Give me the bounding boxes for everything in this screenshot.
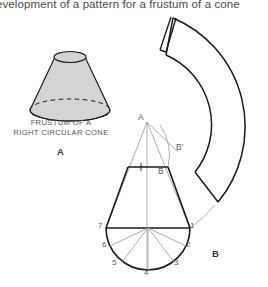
pattern-inner-arc	[166, 55, 212, 172]
plan-radius-2	[148, 228, 186, 246]
plan-point-label-7: 7	[98, 221, 102, 230]
plan-radius-3	[148, 228, 175, 263]
pictorial-caption: FRUSTUM OF A RIGHT CIRCULAR CONE	[6, 118, 116, 137]
seam-line-right	[166, 18, 176, 52]
figure-label-a: A	[57, 146, 64, 157]
developed-pattern	[166, 18, 245, 202]
construction-arc-inner-swing	[160, 125, 169, 167]
construction-lines	[106, 122, 215, 272]
plan-point-label-2: 2	[186, 240, 190, 249]
apex-label-a: A	[138, 112, 144, 122]
figure-label-b: B	[212, 248, 219, 259]
plan-radius-5	[121, 228, 148, 263]
pattern-seam-lines	[160, 17, 176, 52]
pictorial-frustum	[30, 52, 110, 122]
plan-point-label-6: 6	[102, 240, 106, 249]
seam-line-cap	[160, 50, 166, 52]
plan-radius-6	[110, 228, 148, 246]
point-label-b: B	[158, 166, 164, 176]
pattern-radial-edge-end	[195, 172, 218, 202]
point-label-b-prime: B'	[176, 142, 183, 152]
technical-drawing	[0, 0, 268, 287]
plan-point-label-4: 4	[144, 268, 148, 277]
pattern-outer-arc	[173, 18, 245, 202]
figure-canvas: evelopment of a pattern for a frustum of…	[0, 0, 268, 287]
frustum-top-ellipse	[54, 52, 86, 63]
elevation-right-slant	[168, 167, 190, 228]
construction-apex-to-bprime	[147, 122, 178, 152]
plan-point-label-5: 5	[112, 258, 116, 267]
elevation-left-slant	[106, 167, 128, 228]
pictorial-caption-line2: RIGHT CIRCULAR CONE	[6, 128, 116, 138]
frustum-body	[30, 57, 110, 121]
plan-point-label-3: 3	[174, 258, 178, 267]
pictorial-caption-line1: FRUSTUM OF A	[6, 118, 116, 128]
plan-point-label-1: 1	[190, 221, 194, 230]
